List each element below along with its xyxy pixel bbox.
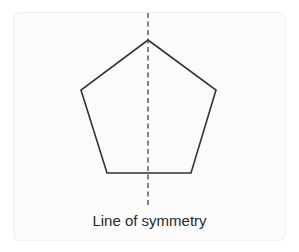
caption-label: Line of symmetry [0, 212, 299, 229]
